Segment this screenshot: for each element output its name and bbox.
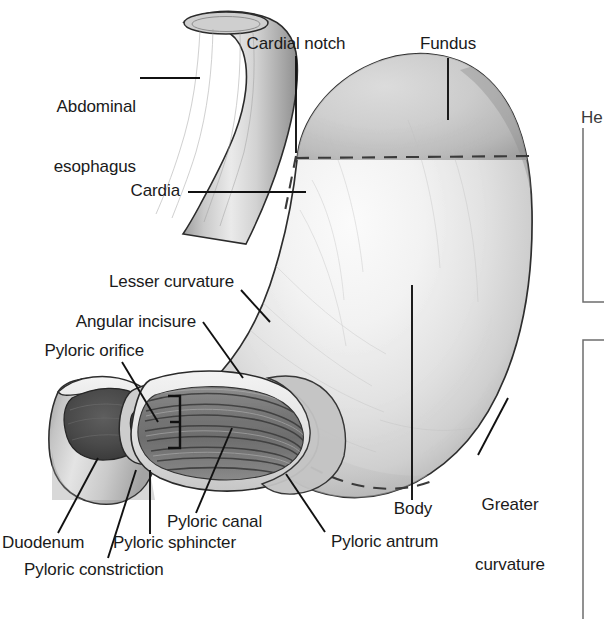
esophagus-rim bbox=[184, 12, 268, 34]
label-body: Body bbox=[382, 499, 444, 519]
label-fundus: Fundus bbox=[404, 34, 492, 54]
clipped-right-panel-label: He bbox=[581, 108, 603, 128]
label-abdominal-esophagus-line1: Abdominal bbox=[12, 97, 136, 117]
label-duodenum: Duodenum bbox=[2, 533, 84, 553]
clipped-panel-lower-bracket bbox=[583, 340, 604, 619]
label-pyloric-sphincter: Pyloric sphincter bbox=[113, 533, 236, 553]
figure-canvas: Abdominal esophagus Cardial notch Fundus… bbox=[0, 0, 604, 619]
label-greater-curvature-line1: Greater bbox=[452, 495, 568, 515]
pyloric-duodenal-section bbox=[49, 371, 346, 504]
label-cardia: Cardia bbox=[62, 181, 180, 201]
label-greater-curvature: Greater curvature bbox=[452, 455, 568, 615]
label-abdominal-esophagus-line2: esophagus bbox=[12, 157, 136, 177]
label-pyloric-constriction: Pyloric constriction bbox=[24, 560, 164, 580]
label-lesser-curvature: Lesser curvature bbox=[28, 272, 234, 292]
label-cardial-notch: Cardial notch bbox=[236, 34, 356, 54]
clipped-panel-upper-bracket bbox=[583, 128, 604, 302]
clipped-right-panels bbox=[583, 128, 604, 619]
label-greater-curvature-line2: curvature bbox=[452, 555, 568, 575]
label-pyloric-orifice: Pyloric orifice bbox=[2, 341, 144, 361]
label-pyloric-antrum: Pyloric antrum bbox=[331, 532, 438, 552]
label-pyloric-canal: Pyloric canal bbox=[167, 512, 262, 532]
label-angular-incisure: Angular incisure bbox=[14, 312, 196, 332]
